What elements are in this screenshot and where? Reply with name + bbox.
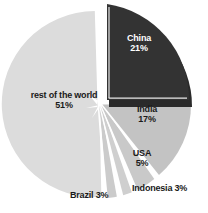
pie-label-india: India 17% — [123, 104, 171, 124]
pie-label-indonesia-name: Indonesia — [132, 183, 172, 193]
pie-label-indonesia: Indonesia 3% — [132, 183, 206, 193]
pie-label-brazil: Brazil 3% — [70, 190, 136, 200]
pie-label-usa-name: USA — [133, 148, 151, 158]
pie-label-china-value: 21% — [111, 43, 167, 53]
pie-label-rest-of-the-world: rest of the world 51% — [18, 90, 110, 110]
pie-label-india-value: 17% — [123, 114, 171, 124]
pie-label-brazil-name: Brazil — [70, 190, 93, 200]
pie-label-rest-of-the-world-value: 51% — [18, 100, 110, 110]
pie-slice-china-group[interactable] — [107, 4, 192, 107]
pie-label-rest-of-the-world-name: rest of the world — [31, 90, 98, 100]
pie-label-usa: USA 5% — [122, 148, 162, 168]
pie-label-china: China 21% — [111, 33, 167, 53]
pie-chart: China 21% India 17% USA 5% Indonesia 3% … — [0, 0, 208, 213]
pie-label-brazil-value: 3% — [96, 190, 109, 200]
pie-label-indonesia-value: 3% — [175, 183, 188, 193]
pie-label-usa-value: 5% — [122, 158, 162, 168]
pie-label-india-name: India — [137, 104, 157, 114]
pie-label-china-name: China — [127, 33, 151, 43]
